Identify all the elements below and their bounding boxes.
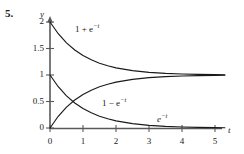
figure-container: 5. y <box>0 0 244 154</box>
curve-one-minus-exp <box>50 75 225 128</box>
curve-annotation-middle-base: 1 − e <box>102 98 120 108</box>
x-tick-label-2: 2 <box>108 137 124 146</box>
y-tick-label-0-5: 0.5 <box>18 97 44 106</box>
x-tick-label-3: 3 <box>141 137 157 146</box>
x-tick-label-4: 4 <box>174 137 190 146</box>
curve-annotation-upper-base: 1 + e <box>75 24 93 34</box>
y-tick-label-1-5: 1.5 <box>18 44 44 53</box>
curve-annotation-middle: 1 − e−t <box>102 99 126 108</box>
curve-annotation-upper-exponent: −t <box>93 22 99 29</box>
y-tick-label-0: 0 <box>24 123 44 132</box>
y-tick-label-1: 1 <box>24 70 44 79</box>
curve-exp-decay <box>50 75 225 128</box>
curve-annotation-middle-exponent: −t <box>120 96 126 103</box>
curve-annotation-lower-exponent: −t <box>161 112 167 119</box>
curve-annotation-upper: 1 + e−t <box>75 25 99 34</box>
x-tick-label-0: 0 <box>42 137 58 146</box>
curve-annotation-lower: e−t <box>157 115 167 124</box>
y-tick-label-2: 2 <box>24 17 44 26</box>
x-tick-label-5: 5 <box>207 137 223 146</box>
x-axis-label: t <box>228 126 231 135</box>
x-tick-label-1: 1 <box>75 137 91 146</box>
